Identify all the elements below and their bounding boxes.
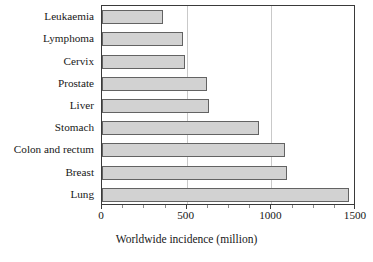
bar	[102, 188, 349, 202]
bar	[102, 10, 163, 24]
x-tick-label: 0	[98, 208, 104, 222]
category-label: Breast	[0, 166, 94, 178]
bar	[102, 32, 183, 46]
bar-series	[102, 6, 354, 204]
x-tick-label: 500	[177, 208, 194, 222]
category-label: Prostate	[0, 77, 94, 89]
category-label: Stomach	[0, 121, 94, 133]
x-axis-tick-labels: 050010001500	[101, 208, 355, 224]
category-label: Cervix	[0, 55, 94, 67]
bar	[102, 166, 287, 180]
bar-chart: LeukaemiaLymphomaCervixProstateLiverStom…	[0, 0, 373, 262]
bar	[102, 77, 207, 91]
x-tick-label: 1000	[259, 208, 281, 222]
category-label: Colon and rectum	[0, 143, 94, 155]
x-axis-title: Worldwide incidence (million)	[0, 232, 373, 246]
category-label: Lymphoma	[0, 32, 94, 44]
category-label: Liver	[0, 99, 94, 111]
plot-area	[101, 5, 355, 205]
category-axis-labels: LeukaemiaLymphomaCervixProstateLiverStom…	[0, 5, 98, 205]
x-tick-label: 1500	[344, 208, 366, 222]
bar	[102, 143, 285, 157]
bar	[102, 55, 185, 69]
category-label: Leukaemia	[0, 10, 94, 22]
category-label: Lung	[0, 188, 94, 200]
bar	[102, 121, 259, 135]
bar	[102, 99, 209, 113]
